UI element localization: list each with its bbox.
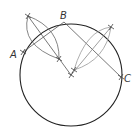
cross-mark-bc-bottom: [71, 67, 77, 73]
cross-marks: [20, 13, 124, 80]
label-a: A: [9, 49, 17, 60]
circle-construction-diagram: A B C: [0, 0, 139, 136]
cross-mark-ab-top: [25, 13, 31, 19]
label-b: B: [60, 10, 67, 21]
label-c: C: [124, 73, 131, 84]
